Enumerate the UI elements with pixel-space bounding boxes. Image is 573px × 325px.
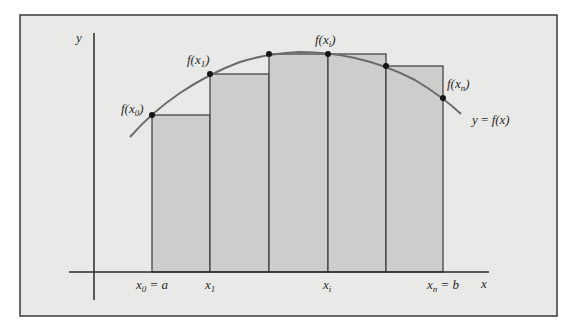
- label-f-xi: f(xi): [315, 32, 336, 49]
- point-xn: [440, 95, 446, 101]
- rectangle-4: [328, 54, 386, 272]
- point-x1: [207, 71, 213, 77]
- point-xi: [325, 51, 331, 57]
- point-x0: [149, 112, 155, 118]
- label-f-xn: f(xn): [447, 76, 470, 93]
- rectangle-5: [386, 66, 443, 272]
- point-x4: [383, 63, 389, 69]
- rectangle-2: [210, 74, 269, 272]
- curve-label: y = f(x): [470, 112, 510, 127]
- tick-label-xn: xn = b: [426, 277, 460, 294]
- x-axis-label: x: [480, 276, 487, 291]
- tick-label-x0: x0 = a: [135, 277, 169, 294]
- y-axis-label: y: [74, 30, 82, 45]
- label-f-x0: f(x0): [121, 101, 144, 118]
- label-f-x1: f(x1): [187, 52, 210, 69]
- rectangle-1: [152, 115, 210, 272]
- rectangle-3: [269, 54, 328, 272]
- riemann-sum-diagram: y x f(x0) f(x1) f(xi) f(xn) y = f(x) x0 …: [0, 0, 573, 325]
- point-x2: [266, 51, 272, 57]
